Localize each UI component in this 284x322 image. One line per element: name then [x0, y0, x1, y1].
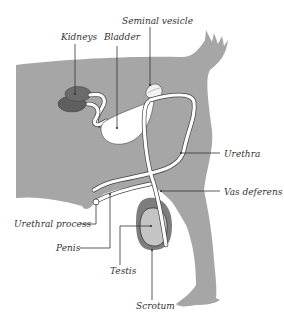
label-penis: Penis: [55, 243, 81, 253]
label-urethral-process: Urethral process: [14, 219, 92, 229]
label-scrotum: Scrotum: [136, 301, 175, 311]
label-urethra: Urethra: [224, 149, 260, 159]
label-seminal-vesicle: Seminal vesicle: [122, 16, 193, 26]
goat-body-silhouette: [16, 30, 228, 306]
label-kidneys: Kidneys: [60, 32, 98, 42]
label-testis: Testis: [110, 266, 137, 276]
label-bladder: Bladder: [103, 32, 141, 42]
label-vas-deferens: Vas deferens: [224, 187, 283, 197]
kidney-front: [65, 87, 91, 102]
goat-anatomy-diagram: Kidneys Bladder Seminal vesicle Urethra …: [0, 0, 284, 322]
